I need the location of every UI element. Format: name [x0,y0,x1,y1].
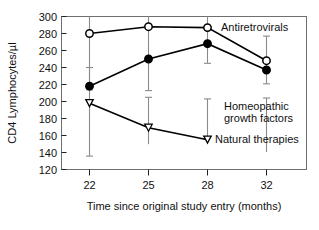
y-tick-label: 300 [39,11,57,23]
x-tick-label: 28 [201,179,213,191]
annotation-homeopathic-line1: Homeopathic [224,100,289,112]
x-tick-label: 32 [260,179,272,191]
y-tick-label: 120 [39,164,57,176]
y-axis-ticks [62,17,67,170]
y-tick-label: 260 [39,45,57,57]
y-tick-label: 280 [39,28,57,40]
cd4-lymphocyte-line-chart: 300 280 260 240 220 200 180 160 140 120 … [0,0,319,230]
y-tick-label: 160 [39,130,57,142]
y-tick-label: 220 [39,79,57,91]
y-axis-title: CD4 Lymphocytes/µl [6,42,18,143]
y-tick-label: 200 [39,96,57,108]
y-tick-label: 180 [39,113,57,125]
y-tick-label: 140 [39,147,57,159]
chart-figure: 300 280 260 240 220 200 180 160 140 120 … [0,0,319,230]
x-axis-title: Time since original study entry (months) [87,200,282,212]
x-tick-label: 22 [83,179,95,191]
x-tick-labels: 22 25 28 32 [83,179,272,191]
plot-frame [62,17,307,170]
annotation-homeopathic-line2: growth factors [224,112,294,124]
annotation-natural-therapies: Natural therapies [215,133,299,145]
annotation-antiretrovirals: Antiretrovirals [221,21,289,33]
y-tick-label: 240 [39,62,57,74]
series-line-homeopathic-growth-factors [90,44,267,86]
x-axis-ticks [90,170,267,176]
x-tick-label: 25 [142,179,154,191]
y-tick-labels: 300 280 260 240 220 200 180 160 140 120 [39,11,57,176]
